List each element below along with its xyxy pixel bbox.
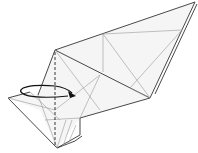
origami-diagram (0, 0, 198, 153)
origami-figure (0, 0, 198, 153)
